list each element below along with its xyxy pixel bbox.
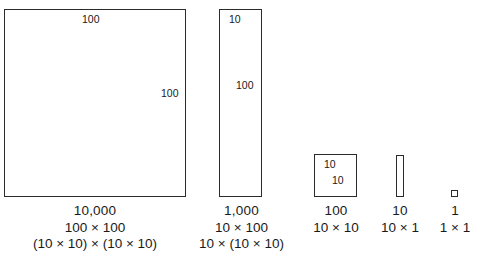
caption-1: 1 1 × 1 bbox=[427, 203, 483, 236]
caption-factored-10000: 100 × 100 bbox=[0, 220, 190, 237]
caption-factored-1000: 10 × 100 bbox=[190, 220, 293, 237]
caption-expanded-10000: (10 × 10) × (10 × 10) bbox=[0, 236, 190, 253]
caption-expanded-1000: 10 × (10 × 10) bbox=[190, 236, 293, 253]
caption-factored-10: 10 × 1 bbox=[369, 220, 431, 237]
dimension-label-100-right: 10 bbox=[332, 175, 344, 186]
dimension-label-1000-top: 10 bbox=[229, 14, 241, 25]
area-rectangle-1000 bbox=[219, 9, 262, 197]
caption-10000: 10,000 100 × 100 (10 × 10) × (10 × 10) bbox=[0, 203, 190, 253]
caption-value-1: 1 bbox=[427, 203, 483, 220]
caption-factored-1: 1 × 1 bbox=[427, 220, 483, 237]
area-rectangle-10000 bbox=[4, 9, 186, 197]
caption-factored-100: 10 × 10 bbox=[302, 220, 370, 237]
area-rectangle-10 bbox=[396, 155, 404, 197]
area-rectangle-1 bbox=[451, 190, 458, 197]
caption-value-10000: 10,000 bbox=[0, 203, 190, 220]
caption-100: 100 10 × 10 bbox=[302, 203, 370, 236]
place-value-area-diagram: 100 100 10 100 10 10 10,000 100 × 100 (1… bbox=[0, 0, 485, 266]
caption-value-100: 100 bbox=[302, 203, 370, 220]
dimension-label-10000-right: 100 bbox=[161, 88, 179, 99]
dimension-label-10000-top: 100 bbox=[82, 14, 100, 25]
dimension-label-100-top: 10 bbox=[324, 159, 336, 170]
caption-1000: 1,000 10 × 100 10 × (10 × 10) bbox=[190, 203, 293, 253]
dimension-label-1000-right: 100 bbox=[236, 80, 254, 91]
caption-value-10: 10 bbox=[369, 203, 431, 220]
caption-10: 10 10 × 1 bbox=[369, 203, 431, 236]
caption-value-1000: 1,000 bbox=[190, 203, 293, 220]
